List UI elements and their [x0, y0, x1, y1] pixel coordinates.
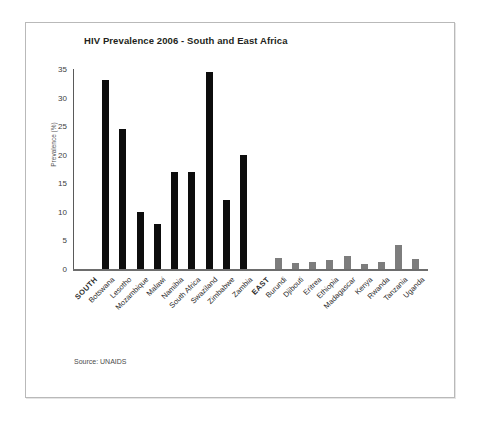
y-axis-line: [73, 69, 74, 270]
bar-uganda: [412, 259, 419, 269]
bar-malawi: [154, 224, 161, 269]
bar-rwanda: [378, 262, 385, 269]
y-tick-label: 20: [58, 150, 67, 159]
y-tick-label: 30: [58, 93, 67, 102]
source-note: Source: UNAIDS: [74, 358, 127, 365]
bar-namibia: [171, 172, 178, 269]
y-tick-label: 0: [63, 265, 67, 274]
bar-kenya: [361, 264, 368, 269]
bar-mozambique: [137, 212, 144, 269]
bar-burundi: [275, 258, 282, 269]
bar-south-africa: [188, 172, 195, 269]
bar-eritrea: [309, 262, 316, 269]
y-tick-label: 35: [58, 65, 67, 74]
bar-zambia: [240, 155, 247, 269]
x-axis-line: [73, 269, 428, 271]
page-title: HIV Prevalence 2006 - South and East Afr…: [84, 35, 288, 46]
bar-djibouti: [292, 263, 299, 269]
y-tick-label: 5: [63, 236, 67, 245]
bar-zimbabwe: [223, 200, 230, 269]
bar-tanzania: [395, 245, 402, 269]
bar-botswana: [102, 80, 109, 269]
bar-ethiopia: [326, 260, 333, 269]
bar-madagascar: [344, 256, 351, 269]
y-axis-label: Prevalence (%): [50, 90, 57, 200]
y-tick-label: 25: [58, 122, 67, 131]
bar-swaziland: [206, 72, 213, 269]
bar-lesotho: [119, 129, 126, 269]
figure-frame: HIV Prevalence 2006 - South and East Afr…: [25, 22, 455, 398]
y-tick-label: 10: [58, 207, 67, 216]
y-tick-label: 15: [58, 179, 67, 188]
plot-area: 05101520253035 SOUTHBotswanaLesothoMozam…: [73, 69, 428, 269]
